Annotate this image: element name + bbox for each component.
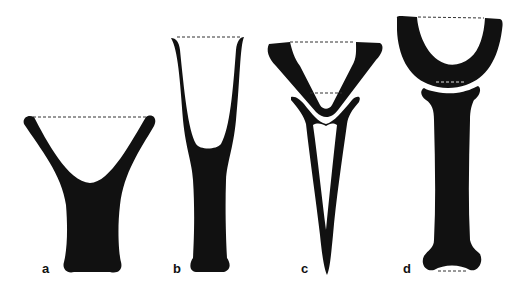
- shape-c: [268, 42, 383, 275]
- label-c: c: [301, 262, 308, 275]
- dashed-line-d-top: [418, 17, 484, 18]
- shape-b: [171, 37, 244, 272]
- figure-diagram: [0, 0, 525, 291]
- label-b: b: [173, 262, 181, 275]
- shape-d: [397, 16, 503, 271]
- shape-a: [24, 116, 156, 273]
- label-d: d: [403, 262, 411, 275]
- label-a: a: [42, 262, 49, 275]
